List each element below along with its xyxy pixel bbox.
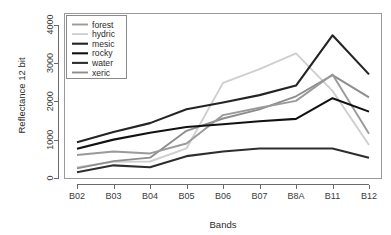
series-line-xeric — [77, 75, 369, 168]
reflectance-line-chart: 01000200030004000B02B03B04B05B06B07B8AB1… — [0, 0, 391, 235]
series-line-forest — [77, 74, 369, 155]
legend-label-xeric: xeric — [92, 68, 111, 78]
x-tick-label: B06 — [215, 191, 231, 201]
y-tick-label: 3000 — [45, 53, 55, 73]
legend-label-hydric: hydric — [92, 29, 116, 39]
y-tick-label: 4000 — [45, 14, 55, 34]
x-tick-label: B12 — [361, 191, 377, 201]
y-tick-label: 1000 — [45, 130, 55, 150]
x-tick-label: B8A — [287, 191, 304, 201]
x-tick-label: B04 — [142, 191, 158, 201]
x-tick-label: B11 — [325, 191, 340, 201]
x-tick-label: B07 — [251, 191, 267, 201]
x-tick-label: B05 — [178, 191, 194, 201]
x-tick-label: B03 — [105, 191, 121, 201]
legend-label-water: water — [91, 58, 113, 68]
y-tick-label: 2000 — [45, 91, 55, 111]
chart-root: 01000200030004000B02B03B04B05B06B07B8AB1… — [0, 0, 391, 235]
legend-label-forest: forest — [92, 20, 114, 30]
legend-label-rocky: rocky — [92, 48, 113, 58]
x-tick-label: B02 — [69, 191, 85, 201]
series-line-rocky — [77, 98, 369, 149]
x-axis-title-text: Bands — [210, 219, 237, 230]
legend-label-mesic: mesic — [92, 39, 115, 49]
y-axis-title-text: Reflectance 12 bit — [16, 57, 27, 133]
y-tick-label: 0 — [45, 175, 55, 180]
